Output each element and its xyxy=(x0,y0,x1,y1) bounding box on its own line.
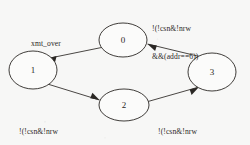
transition-3-to-0-label-line-1: !(!csn&!nrw xyxy=(152,24,198,33)
transition-3-to-0-label: !(!csn&!nrw &&(addr==6)) xyxy=(152,5,198,80)
state-0-label: 0 xyxy=(121,35,126,45)
transition-0-to-1-label-line-1: xmt_over xyxy=(31,39,61,48)
transition-3-to-0-label-line-2: &&(addr==6)) xyxy=(152,52,198,61)
transition-0-to-1-label: xmt_over xyxy=(31,20,61,67)
state-node-0[interactable]: 0 xyxy=(99,23,147,57)
transition-2-to-3 xyxy=(148,87,199,102)
transition-1-to-2-label-line-1: !(!csn&!nrw xyxy=(19,127,65,136)
state-node-2[interactable]: 2 xyxy=(99,89,149,121)
state-3-label: 3 xyxy=(210,67,215,77)
transition-1-to-2 xyxy=(48,84,100,100)
transition-2-to-3-label-line-1: !(!csn&!nrw xyxy=(158,127,204,136)
state-diagram: 0 1 2 3 xmt_over !(!csn&!nrw &&(addr==6)… xyxy=(0,0,250,145)
transition-1-to-2-label: !(!csn&!nrw &&(addr==6)) xyxy=(19,108,65,145)
state-2-label: 2 xyxy=(122,100,127,110)
transition-1-to-2-arrowhead xyxy=(90,93,99,100)
transition-2-to-3-label: !(!csn&!nrw &&(addr==6)) xyxy=(158,108,204,145)
